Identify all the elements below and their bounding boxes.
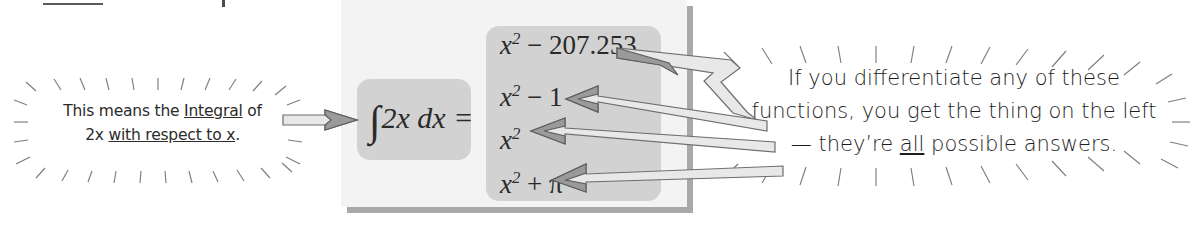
answer-item-1: x2 − 207.253 [500,31,637,59]
integral-sign-icon: ∫ [369,98,382,144]
caption-left-integral-underlined: Integral [184,102,242,120]
caption-left-line-1: This means the Integral of [29,99,296,123]
caption-left-wrt-underlined: with respect to x [109,126,236,144]
answer-1-base: x [500,30,512,60]
caption-right-line-2: functions, you get the thing on the left [744,95,1164,128]
answer-4-base: x [500,169,512,199]
caption-left-l2a: 2x [85,126,108,144]
caption-left-l2b: . [235,126,240,144]
answer-2-rest: − 1 [520,82,562,112]
cropped-glyph-artifact [222,0,225,7]
caption-right-all-underlined: all [900,132,925,156]
integral-expression: ∫2x dx = [369,100,473,142]
caption-right-line-3: — they’re all possible answers. [744,128,1164,161]
answer-1-rest: − 207.253 [520,30,636,60]
answer-3-exponent: 2 [512,124,520,143]
caption-left-l1a: This means the [63,102,184,120]
integral-integrand: 2x dx = [382,101,474,134]
panel-shadow-right [687,6,693,213]
caption-left-l1b: of [243,102,262,120]
figure-canvas: ∫2x dx = x2 − 207.253 x2 − 1 x2 x2 + π [0,0,1195,230]
caption-right-l3a: — they’re [791,132,900,156]
caption-right-l3b: possible answers. [924,132,1117,156]
answer-item-4: x2 + π [500,170,563,198]
answer-item-3: x2 [500,126,520,154]
cropped-underline-artifact [43,3,103,5]
caption-left-line-2: 2x with respect to x. [29,123,296,147]
answer-item-2: x2 − 1 [500,83,563,111]
answer-2-base: x [500,82,512,112]
answer-4-rest: + π [520,169,562,199]
answer-3-base: x [500,125,512,155]
caption-right: If you differentiate any of these functi… [744,62,1164,161]
panel-shadow-bottom [347,207,693,213]
caption-left: This means the Integral of 2x with respe… [29,99,296,147]
caption-right-line-1: If you differentiate any of these [744,62,1164,95]
